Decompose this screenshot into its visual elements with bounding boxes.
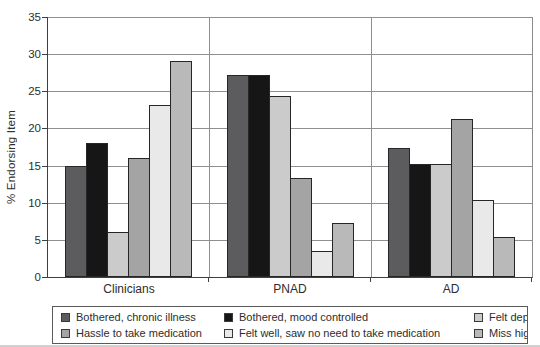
x-axis-tick [370, 277, 371, 282]
legend-swatch-3 [474, 313, 483, 322]
bar-clinicians-s3 [107, 232, 129, 277]
bar-ad-s2 [409, 164, 431, 277]
legend-item-6: Miss highs [474, 325, 527, 341]
gridline-25 [48, 91, 532, 92]
bar-pnad-s4 [290, 178, 312, 277]
legend-swatch-6 [474, 329, 483, 338]
legend-item-4: Hassle to take medication [61, 325, 224, 341]
y-tick-label: 30 [8, 47, 41, 61]
legend-item-2: Bothered, mood controlled [224, 309, 474, 325]
bar-pnad-s6 [332, 223, 354, 277]
y-tick-label: 25 [8, 84, 41, 98]
bar-ad-s5 [472, 200, 494, 277]
category-separator [209, 17, 210, 277]
bar-ad-s3 [430, 164, 452, 277]
bar-clinicians-s1 [65, 166, 87, 277]
x-axis-tick [531, 277, 532, 282]
y-axis-tick [42, 277, 48, 278]
category-label-pnad: PNAD [273, 282, 306, 296]
y-tick-label: 5 [8, 233, 41, 247]
legend-swatch-5 [224, 329, 233, 338]
y-axis-tick [42, 166, 48, 167]
x-axis-tick [208, 277, 209, 282]
bar-pnad-s5 [311, 251, 333, 277]
y-tick-label: 35 [8, 10, 41, 24]
bar-pnad-s3 [269, 96, 291, 277]
gridline-35 [48, 17, 532, 18]
bar-ad-s6 [493, 237, 515, 277]
bar-clinicians-s4 [128, 158, 150, 277]
legend-label-2: Bothered, mood controlled [239, 311, 368, 323]
bar-pnad-s2 [248, 75, 270, 277]
bar-clinicians-s6 [170, 61, 192, 277]
y-tick-label: 10 [8, 196, 41, 210]
plot-area: 05101520253035CliniciansPNADAD [47, 17, 533, 278]
category-label-clinicians: Clinicians [103, 282, 154, 296]
legend-label-6: Miss highs [489, 327, 527, 339]
bar-clinicians-s2 [86, 143, 108, 277]
legend-label-5: Felt well, saw no need to take medicatio… [239, 327, 440, 339]
y-axis-tick [42, 240, 48, 241]
y-tick-label: 20 [8, 121, 41, 135]
y-axis-tick [42, 203, 48, 204]
bar-ad-s1 [388, 148, 410, 277]
category-separator [371, 17, 372, 277]
legend-label-1: Bothered, chronic illness [76, 311, 196, 323]
y-axis-tick [42, 128, 48, 129]
bar-ad-s4 [451, 119, 473, 277]
y-axis-tick [42, 91, 48, 92]
gridline-30 [48, 54, 532, 55]
y-axis-tick [42, 17, 48, 18]
y-tick-label: 0 [8, 270, 41, 284]
bar-clinicians-s5 [149, 105, 171, 277]
y-tick-label: 15 [8, 159, 41, 173]
legend-swatch-2 [224, 313, 233, 322]
legend-swatch-1 [61, 313, 70, 322]
category-label-ad: AD [443, 282, 460, 296]
legend-item-1: Bothered, chronic illness [61, 309, 224, 325]
legend-item-5: Felt well, saw no need to take medicatio… [224, 325, 474, 341]
legend-label-4: Hassle to take medication [76, 327, 202, 339]
legend-swatch-4 [61, 329, 70, 338]
y-axis-tick [42, 54, 48, 55]
legend: Bothered, chronic illnessBothered, mood … [52, 306, 528, 344]
legend-label-3: Felt depressed [489, 311, 527, 323]
legend-item-3: Felt depressed [474, 309, 527, 325]
bar-pnad-s1 [227, 75, 249, 277]
bar-chart: % Endorsing Item 05101520253035Clinician… [0, 0, 540, 347]
